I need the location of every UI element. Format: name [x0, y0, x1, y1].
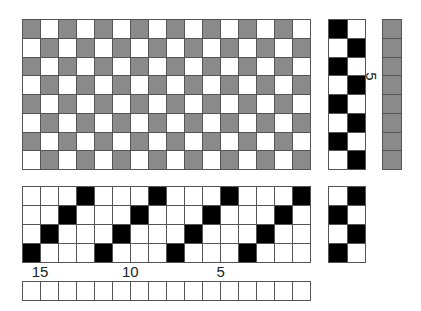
thread-number-label: 15	[32, 264, 49, 279]
threading-cell	[239, 206, 257, 225]
threading-cell	[77, 187, 95, 206]
drawdown-cell	[77, 95, 95, 114]
drawdown-cell	[59, 39, 77, 58]
drawdown-cell	[203, 20, 221, 39]
drawdown-cell	[95, 151, 113, 170]
drawdown-grid	[22, 19, 311, 170]
threading-cell	[275, 206, 293, 225]
drawdown-cell	[41, 133, 59, 152]
drawdown-cell	[113, 95, 131, 114]
threading-cell	[167, 225, 185, 244]
threading-cell	[41, 187, 59, 206]
threading-cell	[41, 206, 59, 225]
drawdown-cell	[167, 76, 185, 95]
threading-cell	[275, 187, 293, 206]
drawdown-cell	[149, 39, 167, 58]
drawdown-cell	[59, 114, 77, 133]
drawdown-cell	[95, 133, 113, 152]
drawdown-cell	[23, 114, 41, 133]
threading-cell	[257, 244, 275, 263]
threading-cell	[167, 244, 185, 263]
threading-cell	[293, 225, 311, 244]
drawdown-cell	[239, 95, 257, 114]
threading-cell	[185, 225, 203, 244]
thread-number-label: 10	[122, 264, 139, 279]
threading-cell	[203, 225, 221, 244]
drawdown-cell	[113, 39, 131, 58]
drawdown-cell	[257, 95, 275, 114]
threading-cell	[203, 206, 221, 225]
threading-grid	[22, 186, 311, 263]
drawdown-cell	[59, 76, 77, 95]
drawdown-cell	[41, 39, 59, 58]
treadling-cell	[329, 114, 348, 133]
drawdown-cell	[23, 58, 41, 77]
drawdown-cell	[275, 133, 293, 152]
drawdown-cell	[275, 39, 293, 58]
drawdown-cell	[113, 76, 131, 95]
threading-cell	[257, 187, 275, 206]
threading-cell	[239, 187, 257, 206]
drawdown-cell	[257, 133, 275, 152]
threading-cell	[95, 244, 113, 263]
drawdown-cell	[293, 76, 311, 95]
threading-cell	[77, 225, 95, 244]
threading-cell	[239, 244, 257, 263]
drawdown-cell	[293, 151, 311, 170]
warp-color-cell	[59, 282, 77, 301]
weft-color-cell	[383, 114, 402, 133]
threading-cell	[77, 206, 95, 225]
threading-cell	[275, 225, 293, 244]
weft-color-cell	[383, 20, 402, 39]
weft-color-cell	[383, 133, 402, 152]
drawdown-cell	[203, 58, 221, 77]
threading-cell	[23, 244, 41, 263]
treadling-cell	[329, 151, 348, 170]
drawdown-cell	[293, 114, 311, 133]
threading-cell	[293, 187, 311, 206]
warp-color-cell	[41, 282, 59, 301]
threading-cell	[221, 225, 239, 244]
drawdown-cell	[203, 95, 221, 114]
drawdown-cell	[59, 58, 77, 77]
threading-cell	[41, 244, 59, 263]
treadling-cell	[329, 133, 348, 152]
tieup-cell	[348, 206, 367, 225]
drawdown-cell	[239, 20, 257, 39]
drawdown-cell	[59, 151, 77, 170]
drawdown-cell	[131, 76, 149, 95]
treadling-cell	[348, 20, 367, 39]
drawdown-cell	[239, 114, 257, 133]
warp-color-cell	[221, 282, 239, 301]
drawdown-cell	[113, 58, 131, 77]
drawdown-cell	[185, 20, 203, 39]
threading-cell	[23, 225, 41, 244]
drawdown-cell	[149, 76, 167, 95]
drawdown-cell	[77, 39, 95, 58]
drawdown-cell	[41, 151, 59, 170]
drawdown-cell	[23, 76, 41, 95]
drawdown-cell	[293, 133, 311, 152]
drawdown-cell	[77, 20, 95, 39]
weft-color-column	[382, 19, 402, 170]
drawdown-cell	[203, 76, 221, 95]
thread-number-label: 5	[216, 264, 224, 279]
drawdown-cell	[221, 114, 239, 133]
drawdown-cell	[23, 39, 41, 58]
drawdown-cell	[167, 95, 185, 114]
drawdown-cell	[95, 20, 113, 39]
drawdown-cell	[23, 20, 41, 39]
threading-cell	[293, 206, 311, 225]
drawdown-cell	[275, 151, 293, 170]
drawdown-cell	[257, 76, 275, 95]
treadling-cell	[329, 39, 348, 58]
threading-cell	[239, 225, 257, 244]
warp-color-cell	[131, 282, 149, 301]
drawdown-cell	[41, 20, 59, 39]
drawdown-cell	[257, 39, 275, 58]
drawdown-cell	[257, 20, 275, 39]
drawdown-cell	[95, 76, 113, 95]
treadling-cell	[329, 95, 348, 114]
threading-cell	[77, 244, 95, 263]
drawdown-cell	[275, 95, 293, 114]
